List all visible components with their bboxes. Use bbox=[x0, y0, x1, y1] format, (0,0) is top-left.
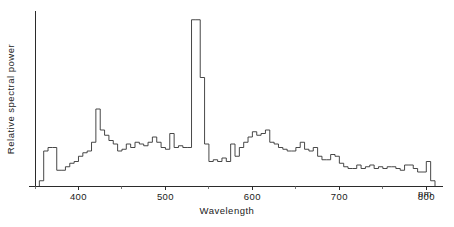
spectral-power-curve bbox=[39, 20, 435, 186]
spd-chart-canvas: 400500600700800 bbox=[0, 0, 454, 227]
axis-group bbox=[29, 11, 443, 190]
data-layer bbox=[39, 20, 435, 186]
spectral-power-distribution-figure: 400500600700800 nm Wavelength Relative s… bbox=[0, 0, 454, 227]
x-axis-tick-labels: 400500600700800 bbox=[70, 191, 435, 202]
x-axis-major-ticks bbox=[78, 186, 426, 190]
x-tick-label-400: 400 bbox=[70, 191, 87, 202]
x-tick-label-500: 500 bbox=[157, 191, 174, 202]
x-tick-label-800: 800 bbox=[418, 191, 435, 202]
x-tick-label-600: 600 bbox=[244, 191, 261, 202]
x-tick-label-700: 700 bbox=[331, 191, 348, 202]
